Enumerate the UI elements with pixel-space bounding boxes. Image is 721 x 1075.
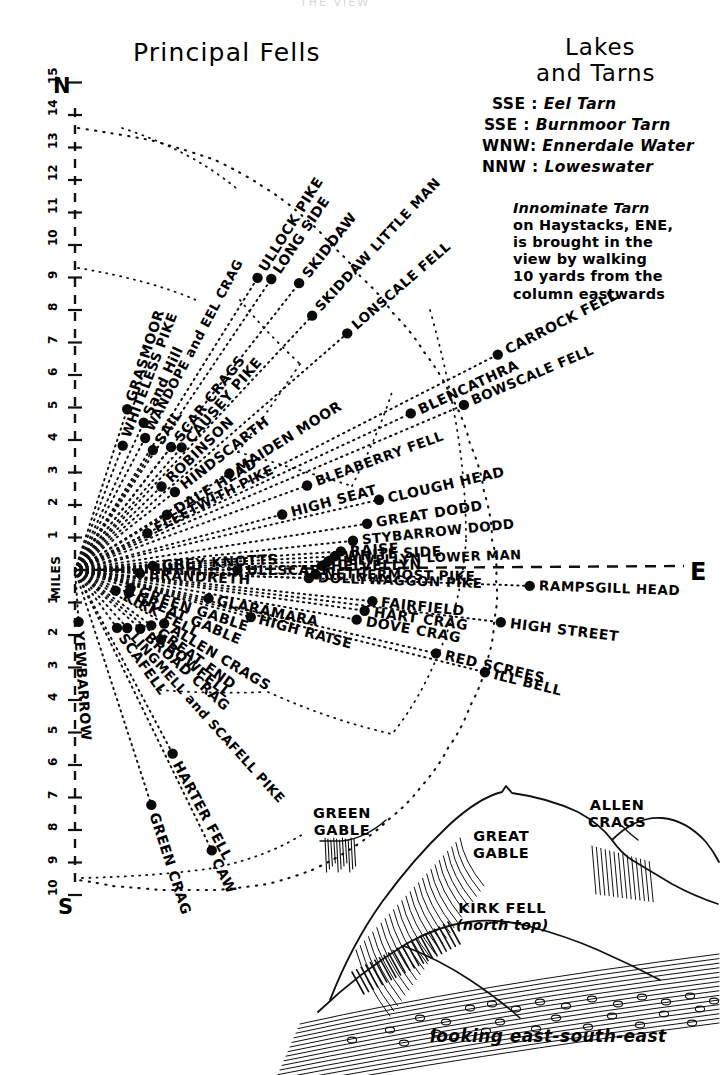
pano-label-line: GABLE: [473, 845, 529, 862]
pano-label-great-gable: GREAT GABLE: [473, 828, 529, 861]
panorama-caption: looking east-south-east: [430, 1026, 666, 1046]
pano-label-green-gable: GREEN GABLE: [313, 805, 371, 838]
pano-label-line: CRAGS: [588, 814, 646, 831]
pano-label-line: GREEN: [313, 805, 371, 822]
pano-label-line: ALLEN: [588, 797, 646, 814]
pano-label-line: (north top): [456, 917, 548, 934]
pano-label-line: GREAT: [473, 828, 529, 845]
panorama-diagram-page: THE VIEW Principal Fells Lakes and Tarns…: [0, 0, 721, 1075]
pano-label-allen-crags: ALLEN CRAGS: [588, 797, 646, 830]
pano-label-line: GABLE: [313, 822, 371, 839]
pano-label-kirk-fell: KIRK FELL (north top): [456, 900, 548, 933]
panorama-sketch: [0, 0, 721, 1075]
pano-label-line: KIRK FELL: [456, 900, 548, 917]
